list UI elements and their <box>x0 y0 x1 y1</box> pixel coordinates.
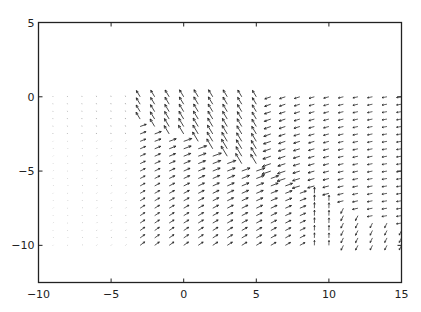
x-tick-label: −5 <box>103 288 119 301</box>
arrow <box>82 156 83 157</box>
vector-field-arrows <box>53 90 402 250</box>
x-tick-labels: −10−5051015 <box>27 288 409 301</box>
arrow <box>82 185 83 186</box>
arrow <box>111 185 112 186</box>
arrow <box>82 208 83 209</box>
axes-frame <box>39 23 402 283</box>
y-tick-label: −5 <box>18 165 34 178</box>
arrow <box>82 223 83 224</box>
arrow <box>97 230 98 231</box>
arrow <box>126 230 127 231</box>
arrow <box>82 237 83 238</box>
arrow <box>111 208 112 209</box>
arrow <box>97 237 98 238</box>
arrow <box>111 141 112 142</box>
arrow <box>97 141 98 142</box>
arrow <box>97 223 98 224</box>
arrow <box>97 163 98 164</box>
arrow <box>82 215 83 216</box>
arrow <box>111 163 112 164</box>
arrow <box>126 185 127 186</box>
arrow <box>97 178 98 179</box>
arrow <box>126 208 127 209</box>
arrow <box>82 178 83 179</box>
arrow <box>82 200 83 201</box>
arrow <box>111 245 112 246</box>
arrow <box>126 170 127 171</box>
arrow <box>97 200 98 201</box>
arrow <box>97 148 98 149</box>
arrow <box>97 208 98 209</box>
quiver-plot: −10−5051015 50−5−10 <box>0 0 421 312</box>
x-tick-label: 0 <box>180 288 187 301</box>
arrow <box>97 193 98 194</box>
arrow <box>82 171 83 172</box>
arrow <box>97 185 98 186</box>
arrow <box>126 200 127 201</box>
arrow <box>111 170 112 171</box>
arrow <box>97 171 98 172</box>
arrow <box>111 156 112 157</box>
arrow <box>111 193 112 194</box>
arrow <box>126 141 127 142</box>
arrow <box>126 245 127 246</box>
arrow <box>82 148 83 149</box>
arrow <box>193 132 199 141</box>
arrow <box>126 215 127 216</box>
arrow <box>82 245 83 246</box>
arrow <box>126 148 127 149</box>
arrow <box>126 193 127 194</box>
axis-ticks <box>39 23 402 283</box>
arrow <box>111 237 112 238</box>
arrow <box>82 141 83 142</box>
y-tick-labels: 50−5−10 <box>11 17 34 253</box>
arrow <box>126 163 127 164</box>
arrow <box>111 200 112 201</box>
arrow <box>97 245 98 246</box>
arrow <box>97 215 98 216</box>
x-tick-label: 15 <box>395 288 409 301</box>
x-tick-label: 5 <box>253 288 260 301</box>
y-tick-label: 0 <box>28 91 35 104</box>
arrow <box>82 230 83 231</box>
x-tick-label: 10 <box>322 288 336 301</box>
arrow <box>126 156 127 157</box>
arrow <box>111 148 112 149</box>
arrow <box>111 215 112 216</box>
arrow <box>126 237 127 238</box>
arrow <box>111 178 112 179</box>
y-tick-label: 5 <box>28 17 35 30</box>
arrow <box>111 222 112 223</box>
arrow <box>126 222 127 223</box>
arrow <box>97 156 98 157</box>
arrow <box>82 193 83 194</box>
y-tick-label: −10 <box>11 239 34 252</box>
arrow <box>251 154 257 163</box>
arrow <box>126 178 127 179</box>
arrow <box>82 163 83 164</box>
arrow <box>111 230 112 231</box>
x-tick-label: −10 <box>27 288 50 301</box>
